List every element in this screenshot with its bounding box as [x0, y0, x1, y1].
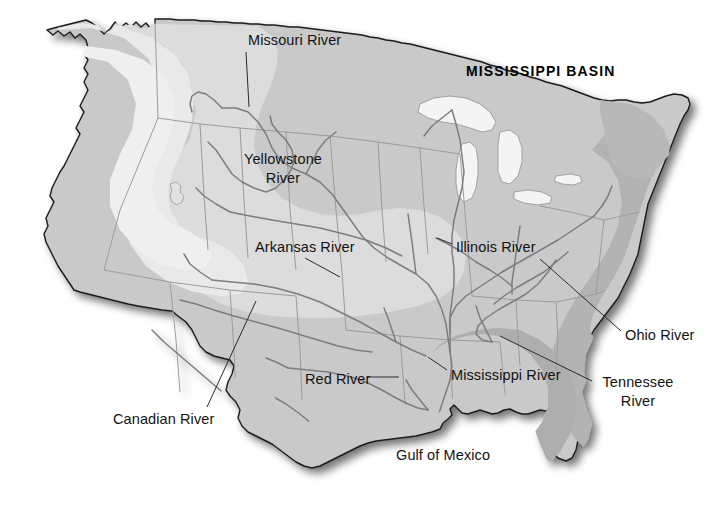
label-tennessee-river: Tennessee River: [595, 373, 681, 411]
label-mississippi-river: Mississippi River: [451, 366, 561, 385]
label-red-river: Red River: [305, 370, 370, 389]
label-ohio-river: Ohio River: [625, 326, 695, 345]
landmass-group: [44, 19, 690, 468]
label-gulf-of-mexico: Gulf of Mexico: [396, 446, 490, 465]
label-canadian-river: Canadian River: [113, 410, 214, 429]
label-arkansas-river: Arkansas River: [255, 238, 355, 257]
lake-huron: [498, 130, 522, 184]
label-yellowstone-river: Yellowstone River: [238, 150, 328, 188]
map-title: MISSISSIPPI BASIN: [466, 63, 615, 79]
mississippi-basin-map: MISSISSIPPI BASIN Missouri River Yellows…: [0, 0, 723, 515]
label-illinois-river: Illinois River: [456, 238, 536, 257]
label-missouri-river: Missouri River: [248, 31, 341, 50]
